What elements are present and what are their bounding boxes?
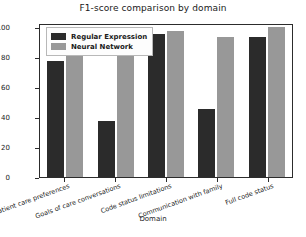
chart-figure: F1-score comparison by domain 0 20 40 60… [0,0,306,237]
x-tick-mark-1 [115,178,116,182]
bar-regular-expression-1 [98,121,115,177]
y-tick-label-100: 100 [0,24,10,32]
legend-swatch-neural-network [51,43,66,50]
y-tick-label-40: 40 [0,114,10,122]
bar-regular-expression-3 [198,109,215,177]
y-tick-label-80: 80 [0,54,10,62]
legend-entry-regular-expression: Regular Expression [51,32,147,41]
bar-regular-expression-0 [47,61,64,177]
x-tick-mark-0 [64,178,65,182]
bar-group-full-code-status [242,25,292,177]
legend-entry-neural-network: Neural Network [51,42,147,51]
bar-neural-network-3 [217,37,234,177]
bar-neural-network-0 [66,48,83,177]
legend-label-regular-expression: Regular Expression [71,33,147,41]
y-tick-label-0: 0 [0,174,10,182]
chart-legend: Regular Expression Neural Network [46,27,153,56]
x-axis-label: Domain [0,215,306,223]
y-tick-label-20: 20 [0,144,10,152]
bar-neural-network-4 [268,27,285,177]
x-tick-mark-2 [166,178,167,182]
y-tick-mark-0 [35,178,39,179]
legend-swatch-regular-expression [51,33,66,40]
bar-group-communication-with-family [191,25,241,177]
x-tick-mark-4 [268,178,269,182]
bar-neural-network-1 [117,46,134,177]
y-tick-label-60: 60 [0,84,10,92]
bar-regular-expression-4 [249,37,266,177]
legend-label-neural-network: Neural Network [71,43,133,51]
x-tick-mark-3 [217,178,218,182]
chart-title: F1-score comparison by domain [0,3,306,13]
bar-neural-network-2 [167,31,184,177]
